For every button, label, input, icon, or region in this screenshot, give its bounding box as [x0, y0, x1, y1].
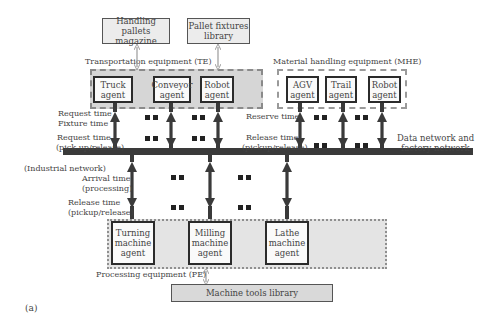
pe-processing-label: (processing)	[82, 184, 132, 194]
mhe-pickup-release-label: (pickup/release)	[242, 143, 308, 153]
ellipsis-dot	[153, 136, 158, 141]
te-fixture-time-label: Fixture time	[58, 119, 108, 129]
ellipsis-dot	[322, 115, 327, 120]
machine-tools-library-label: Machine tools library	[206, 288, 298, 298]
ellipsis-dot	[363, 143, 368, 148]
ellipsis-dot	[192, 136, 197, 141]
ellipsis-dot	[171, 175, 176, 180]
ellipsis-dot	[200, 136, 205, 141]
ellipsis-dot	[238, 205, 243, 210]
ellipsis-dot	[192, 115, 197, 120]
milling-machine-agent: Milling machine agent	[188, 221, 232, 265]
turning-machine-agent: Turning machine agent	[111, 221, 155, 265]
ellipsis-dot	[246, 175, 251, 180]
ellipsis-dot	[145, 136, 150, 141]
lathe-machine-agent-label: Lathe machine agent	[269, 228, 306, 258]
milling-machine-agent-label: Milling machine agent	[192, 228, 229, 258]
ellipsis-dot	[246, 205, 251, 210]
lathe-machine-agent: Lathe machine agent	[265, 221, 309, 265]
pe-release-time-label: Release time	[68, 198, 120, 208]
ellipsis-dot	[200, 115, 205, 120]
te-pickup-release-label: (pick up/release)	[56, 143, 124, 153]
pe-arrival-time-label: Arrival time	[82, 174, 130, 184]
ellipsis-dot	[145, 115, 150, 120]
ellipsis-dot	[355, 143, 360, 148]
turning-machine-agent-label: Turning machine agent	[115, 228, 152, 258]
te-request-time2-label: Request time	[57, 133, 111, 143]
pe-pickup-release-label: (pickup/release)	[68, 208, 134, 218]
mhe-reserve-time-label: Reserve time	[246, 112, 299, 122]
connections-layer	[0, 0, 496, 325]
ellipsis-dot	[238, 175, 243, 180]
ellipsis-dot	[171, 205, 176, 210]
ellipsis-dot	[363, 115, 368, 120]
machine-tools-library-box: Machine tools library	[171, 284, 333, 302]
ellipsis-dot	[355, 115, 360, 120]
ellipsis-dot	[179, 175, 184, 180]
mhe-release-time-label: Release time	[246, 133, 298, 143]
ellipsis-dot	[153, 115, 158, 120]
ellipsis-dot	[314, 143, 319, 148]
te-request-time-label: Request time	[58, 109, 112, 119]
network-label-line2: factory network	[401, 143, 470, 153]
industrial-network-label: (Industrial network)	[24, 164, 106, 174]
figure-label: (a)	[25, 303, 37, 313]
pe-group-label: Processing equipment (PE)	[96, 270, 206, 280]
ellipsis-dot	[179, 205, 184, 210]
network-label-line1: Data network and	[397, 133, 474, 143]
ellipsis-dot	[314, 115, 319, 120]
ellipsis-dot	[322, 143, 327, 148]
